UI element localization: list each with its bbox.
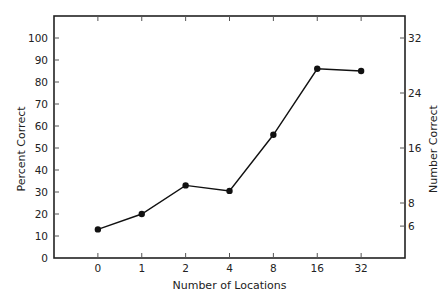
data-point-1 [139, 211, 145, 217]
y2-axis-title: Number Correct [427, 104, 440, 193]
y2-tick-label: 16 [408, 142, 422, 154]
y-axis-right: 32241686 [400, 32, 422, 232]
x-tick-label: 0 [95, 262, 102, 274]
series-line [98, 69, 361, 230]
chart: 0102030405060708090100 32241686 01248163… [0, 0, 447, 308]
y-axis-title: Percent Correct [15, 106, 28, 192]
y-tick-label: 20 [35, 208, 48, 220]
y-tick-label: 60 [35, 120, 48, 132]
data-point-16 [314, 66, 320, 72]
y2-tick-label: 32 [408, 32, 421, 44]
x-axis-title: Number of Locations [172, 279, 286, 292]
x-tick-label: 4 [226, 262, 233, 274]
y-tick-label: 50 [35, 142, 48, 154]
plot-frame [54, 16, 405, 258]
y2-tick-label: 8 [408, 197, 415, 209]
y-tick-label: 0 [41, 252, 48, 264]
y2-tick-label: 6 [408, 220, 415, 232]
y-tick-label: 80 [35, 76, 48, 88]
x-tick-label: 8 [270, 262, 277, 274]
y-tick-label: 100 [28, 32, 48, 44]
series-group [95, 66, 365, 233]
data-point-8 [270, 132, 276, 138]
y2-tick-label: 24 [408, 87, 422, 99]
x-tick-label: 16 [311, 262, 325, 274]
x-tick-label: 2 [182, 262, 189, 274]
y-tick-label: 70 [35, 98, 48, 110]
x-tick-label: 32 [354, 262, 367, 274]
data-point-2 [182, 182, 188, 188]
x-axis: 012481632 [95, 16, 368, 274]
data-point-32 [358, 68, 364, 74]
y-tick-label: 40 [35, 164, 48, 176]
x-tick-label: 1 [138, 262, 145, 274]
y-tick-label: 10 [35, 230, 48, 242]
data-point-0 [95, 226, 101, 232]
data-point-4 [226, 188, 232, 194]
y-tick-label: 90 [35, 54, 48, 66]
y-tick-label: 30 [35, 186, 48, 198]
